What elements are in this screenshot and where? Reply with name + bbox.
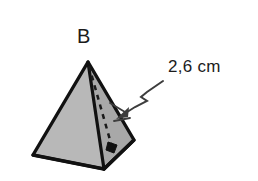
pyramid-drawing	[0, 0, 258, 181]
measurement-label: 2,6 cm	[168, 58, 221, 75]
leader-line	[124, 81, 163, 114]
geometry-figure: B 2,6 cm	[0, 0, 258, 181]
apex-vertex-label: B	[77, 26, 91, 46]
